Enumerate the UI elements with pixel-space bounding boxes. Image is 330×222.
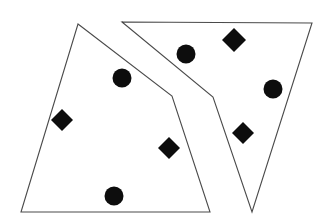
circle-marker-left-upper	[113, 69, 132, 88]
circle-marker-right-upper	[177, 45, 196, 64]
circle-marker-left-lower	[105, 187, 124, 206]
figure-container	[0, 0, 330, 222]
polygon-scatter-figure	[0, 0, 330, 222]
circle-marker-right-middle	[264, 80, 283, 99]
